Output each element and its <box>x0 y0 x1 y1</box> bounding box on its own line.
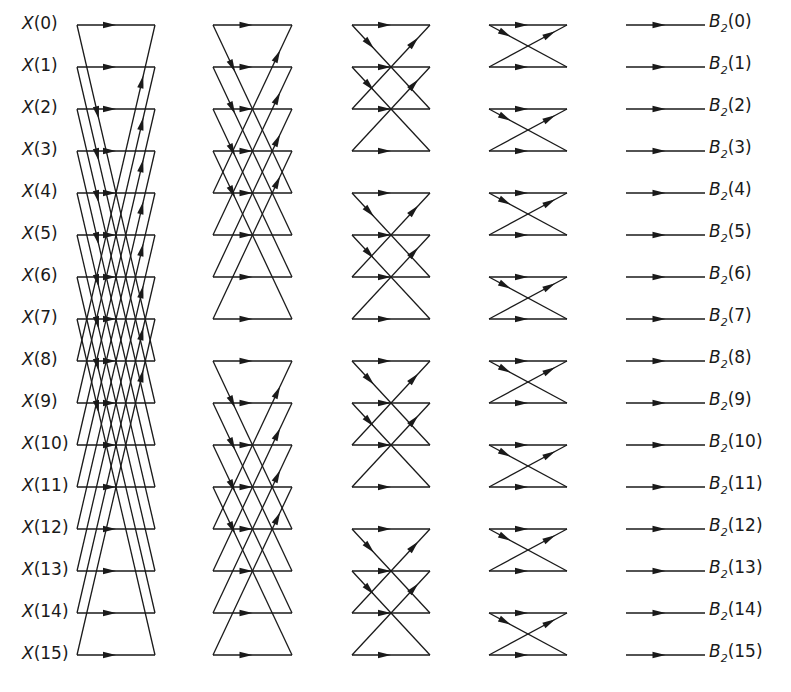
input-label: X(15) <box>22 645 69 662</box>
arrowhead-icon <box>498 28 511 37</box>
input-label: X(12) <box>22 519 69 536</box>
arrowhead-icon <box>498 616 511 625</box>
arrowhead-icon <box>103 64 116 70</box>
arrowhead-icon <box>272 512 280 525</box>
arrowhead-icon <box>240 484 253 490</box>
arrowhead-icon <box>103 610 116 616</box>
arrowhead-icon <box>272 470 280 483</box>
output-label: B2(11) <box>709 475 763 492</box>
output-label: B2(9) <box>709 391 752 408</box>
arrowhead-icon <box>103 442 116 448</box>
arrowhead-icon <box>653 106 666 112</box>
arrowhead-icon <box>515 526 528 532</box>
input-label: X(10) <box>22 435 69 452</box>
arrowhead-icon <box>227 437 235 450</box>
butterfly-diagram <box>0 0 791 692</box>
input-label: X(5) <box>22 225 58 242</box>
arrowhead-icon <box>653 22 666 28</box>
arrowhead-icon <box>103 568 116 574</box>
arrowhead-icon <box>542 283 555 292</box>
output-label: B2(3) <box>709 139 752 156</box>
arrowhead-icon <box>515 400 528 406</box>
arrowhead-icon <box>653 442 666 448</box>
arrowhead-icon <box>103 484 116 490</box>
arrowhead-icon <box>542 367 555 376</box>
arrowhead-icon <box>240 148 253 154</box>
output-label: B2(8) <box>709 349 752 366</box>
output-label: B2(13) <box>709 559 763 576</box>
arrowhead-icon <box>272 386 280 399</box>
arrowhead-icon <box>103 106 116 112</box>
arrowhead-icon <box>227 101 235 114</box>
output-label: B2(12) <box>709 517 763 534</box>
output-label: B2(15) <box>709 643 763 660</box>
arrowhead-icon <box>515 484 528 490</box>
arrowhead-icon <box>103 22 116 28</box>
arrowhead-icon <box>542 31 555 40</box>
arrowhead-icon <box>240 610 253 616</box>
output-label: B2(7) <box>709 307 752 324</box>
arrowhead-icon <box>653 568 666 574</box>
arrowhead-icon <box>240 316 253 322</box>
arrowhead-icon <box>498 532 511 541</box>
arrowhead-icon <box>137 75 143 88</box>
arrowhead-icon <box>653 148 666 154</box>
arrowhead-icon <box>240 190 253 196</box>
arrowhead-icon <box>653 358 666 364</box>
arrowhead-icon <box>542 115 555 124</box>
arrowhead-icon <box>515 568 528 574</box>
input-label: X(9) <box>22 393 58 410</box>
arrowhead-icon <box>515 652 528 658</box>
arrowhead-icon <box>227 59 235 72</box>
output-label: B2(0) <box>709 13 752 30</box>
output-label: B2(6) <box>709 265 752 282</box>
arrowhead-icon <box>240 64 253 70</box>
arrowhead-icon <box>653 652 666 658</box>
arrowhead-icon <box>93 232 99 245</box>
arrowhead-icon <box>515 232 528 238</box>
arrowhead-icon <box>103 358 116 364</box>
arrowhead-icon <box>653 190 666 196</box>
arrowhead-icon <box>378 652 391 658</box>
input-label: X(0) <box>22 15 58 32</box>
arrowhead-icon <box>515 274 528 280</box>
arrowhead-icon <box>103 274 116 280</box>
arrowhead-icon <box>103 148 116 154</box>
arrowhead-icon <box>515 358 528 364</box>
arrowhead-icon <box>240 442 253 448</box>
arrowhead-icon <box>378 358 391 364</box>
arrowhead-icon <box>515 64 528 70</box>
input-label: X(2) <box>22 99 58 116</box>
arrowhead-icon <box>272 50 280 63</box>
arrowhead-icon <box>137 117 143 130</box>
output-label: B2(5) <box>709 223 752 240</box>
arrowhead-icon <box>653 610 666 616</box>
arrowhead-icon <box>378 316 391 322</box>
arrowhead-icon <box>515 148 528 154</box>
input-label: X(11) <box>22 477 69 494</box>
arrowhead-icon <box>542 535 555 544</box>
input-label: X(14) <box>22 603 69 620</box>
arrowhead-icon <box>515 22 528 28</box>
arrowhead-icon <box>272 176 280 189</box>
arrowhead-icon <box>653 484 666 490</box>
arrowhead-icon <box>272 92 280 105</box>
arrowhead-icon <box>103 316 116 322</box>
input-label: X(4) <box>22 183 58 200</box>
arrowhead-icon <box>240 232 253 238</box>
output-label: B2(10) <box>709 433 763 450</box>
arrowhead-icon <box>240 274 253 280</box>
arrowhead-icon <box>137 159 143 172</box>
arrowhead-icon <box>515 442 528 448</box>
arrowhead-icon <box>498 112 511 121</box>
arrowhead-icon <box>653 316 666 322</box>
arrowhead-icon <box>378 190 391 196</box>
arrowhead-icon <box>515 106 528 112</box>
arrowhead-icon <box>653 526 666 532</box>
arrowhead-icon <box>137 201 143 214</box>
arrowhead-icon <box>227 395 235 408</box>
arrowhead-icon <box>498 448 511 457</box>
input-label: X(13) <box>22 561 69 578</box>
arrowhead-icon <box>103 652 116 658</box>
arrowhead-icon <box>240 568 253 574</box>
